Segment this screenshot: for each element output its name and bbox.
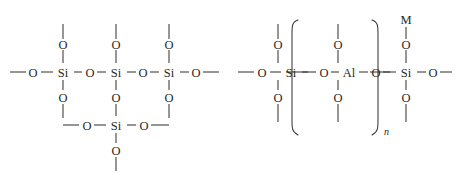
atom-o-top-2: O: [111, 38, 120, 52]
atom-o-bottom-1: O: [58, 91, 67, 105]
atom-o-bottom-si-left: O: [273, 91, 282, 105]
atom-o-right-end: O: [191, 66, 200, 80]
atom-o-top-1: O: [58, 38, 67, 52]
atom-si-right: Si: [401, 66, 412, 80]
chemical-structure-diagram: Si Si Si Si O O O O O O O O O O O O O: [0, 0, 457, 182]
atom-o-bottom-al: O: [333, 91, 342, 105]
atom-si-2: Si: [111, 66, 122, 80]
atom-o-bottom-3: O: [164, 91, 173, 105]
atom-o-bridge-right: O: [371, 66, 380, 80]
atom-al-center: Al: [343, 66, 356, 80]
atom-o-bridge-left: O: [319, 66, 328, 80]
atom-si-1: Si: [58, 66, 69, 80]
atom-o-right-end-2: O: [428, 66, 437, 80]
atom-o-left-end: O: [28, 66, 37, 80]
atom-o-top-si-left: O: [273, 38, 282, 52]
atom-o-bottom-2: O: [111, 91, 120, 105]
aluminosilicate-network-group: Si Al Si O O O O O O O O O O M n: [238, 13, 452, 137]
atom-o-row2-right: O: [139, 119, 148, 133]
atom-si-4: Si: [111, 119, 122, 133]
atom-o-row2-left: O: [82, 119, 91, 133]
atom-o-top-si-right: O: [401, 38, 410, 52]
atom-o-bridge-12: O: [85, 66, 94, 80]
atom-o-bridge-23: O: [138, 66, 147, 80]
atom-o-top-3: O: [164, 38, 173, 52]
silicate-network-group: Si Si Si Si O O O O O O O O O O O O O: [10, 24, 219, 171]
figure-canvas: Si Si Si Si O O O O O O O O O O O O O: [0, 0, 457, 182]
atom-si-3: Si: [164, 66, 175, 80]
atom-si-left: Si: [286, 66, 297, 80]
atom-o-bottom-si-right: O: [401, 91, 410, 105]
atom-cation-m: M: [400, 13, 411, 27]
atom-o-left-end-2: O: [257, 66, 266, 80]
atom-o-row2-bottom: O: [111, 144, 120, 158]
repeat-subscript-n: n: [384, 126, 389, 137]
atom-o-top-al: O: [333, 38, 342, 52]
